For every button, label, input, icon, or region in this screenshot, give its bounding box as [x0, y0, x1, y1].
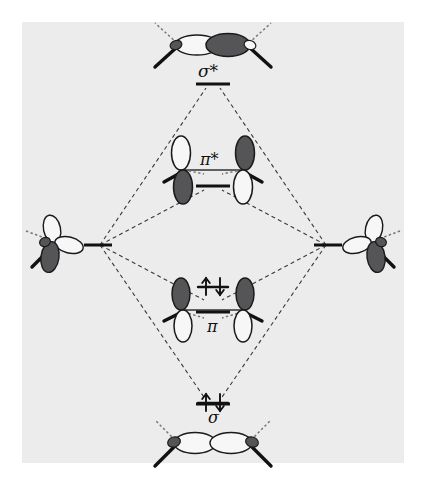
correlation-lines	[100, 88, 326, 400]
sigma-star-dotted-left	[155, 23, 177, 43]
correlation-line-right-sigma-star	[220, 88, 326, 245]
pi-electrons	[198, 278, 228, 295]
pi-star-right-dark-lobe	[236, 136, 255, 170]
sigma-star-label: σ*	[198, 61, 218, 81]
sigma-star-dotted-right	[249, 23, 271, 43]
sigma-star-dark-lobe	[206, 34, 250, 57]
pi-right-light-lobe	[234, 310, 252, 342]
pi-star-left-light-lobe	[172, 136, 191, 170]
pi-star-left-dark-lobe	[174, 170, 193, 204]
right-atomic-orbital	[341, 214, 400, 274]
pi-left-light-lobe	[174, 310, 192, 342]
pi-left-dark-lobe	[172, 278, 190, 310]
left-atomic-orbital	[26, 214, 85, 274]
pi-star-right-light-lobe	[234, 170, 253, 204]
pi-star-label: π*	[200, 150, 219, 169]
figure-canvas: σ* π* π σ	[0, 0, 426, 485]
sigma-label: σ	[208, 408, 219, 427]
mo-level-bars	[196, 84, 230, 404]
pi-star-orbital	[164, 136, 262, 204]
pi-label: π	[207, 317, 218, 336]
correlation-line-left-sigma-star	[100, 88, 206, 245]
sigma-bond-left	[155, 446, 175, 466]
sigma-bond-right	[251, 446, 271, 466]
pi-right-dark-lobe	[236, 278, 254, 310]
